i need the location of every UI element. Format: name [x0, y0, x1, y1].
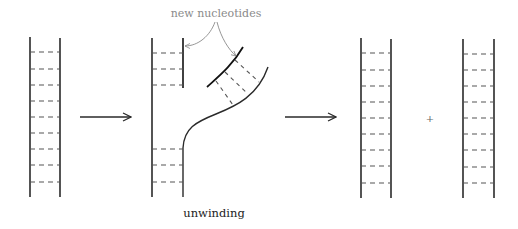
replication-fork: new nucleotides unwinding	[152, 7, 268, 220]
base-pair-rungs	[463, 54, 494, 183]
new-nucleotides-label: new nucleotides	[171, 7, 262, 20]
parent-dna-ladder	[30, 37, 60, 197]
upper-rungs	[152, 53, 183, 85]
unwound-strand	[183, 67, 268, 197]
daughter-dna-ladder-2	[463, 39, 494, 198]
new-strand-branch	[207, 47, 243, 87]
branch-rungs	[216, 60, 259, 105]
unwinding-label: unwinding	[183, 206, 245, 220]
daughter-dna-ladder-1	[361, 38, 391, 198]
dna-replication-diagram: new nucleotides unwinding +	[0, 0, 518, 229]
annotation-arrows	[185, 22, 236, 56]
plus-sign: +	[426, 113, 434, 124]
base-pair-rungs	[361, 53, 391, 183]
base-pair-rungs	[30, 52, 60, 182]
lower-rungs	[152, 149, 183, 182]
